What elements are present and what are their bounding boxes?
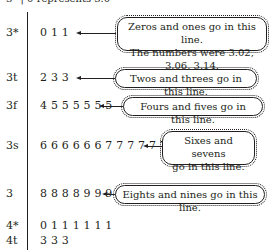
note-cloud-twos-threes: Twos and threes go in this line. [115,69,257,88]
arrow-icon [80,33,116,34]
leaves-4-star: 0 1 1 1 1 1 1 [40,219,113,232]
stem-3s: 3s [6,139,19,152]
stem-leaf-key: 3* | 0 represents 3.0 [6,0,110,4]
stem-3f: 3f [6,99,17,112]
note-line: Fours and fives go in this line. [130,100,256,126]
note-cloud-eights-nines: Eights and nines go in this line. [115,185,265,204]
stem-4-star: 4* [6,219,19,232]
stem-3t: 3t [6,71,17,84]
leaves-3-star: 0 1 1 [40,26,69,39]
arrow-icon [80,78,115,79]
note-line: Zeros and ones go in this line. [124,20,260,46]
note-line: Eights and nines go in this line. [122,188,258,214]
note-line: go in this line. [169,160,248,173]
stem-divider [27,12,28,250]
stem-3-star: 3* [6,26,19,39]
note-cloud-fours-fives: Fours and fives go in this line. [123,97,263,116]
note-cloud-sixes-sevens: Sixes and sevens go in this line. [162,131,255,165]
leaves-4t: 3 3 3 [40,234,69,247]
arrow-icon [103,106,123,107]
stem-3-upper: 3 [6,187,13,200]
leaves-3t: 2 3 3 [40,71,69,84]
stem-4t: 4t [6,234,17,247]
note-line: Sixes and sevens [169,134,248,160]
note-cloud-zeros-ones: Zeros and ones go in this line. The numb… [117,17,267,51]
